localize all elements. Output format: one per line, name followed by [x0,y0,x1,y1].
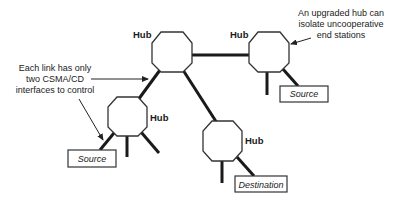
annotation-line: isolate uncooperative [298,19,383,29]
hub-label: Hub [150,112,169,123]
arrow-icon [291,38,311,44]
annotation-line: An upgraded hub can [298,8,384,18]
hub-octagon-icon [203,121,242,161]
link-right-source [282,68,298,86]
stub-left-diagonal [141,132,159,153]
hub-octagon-icon [108,97,147,136]
link-left-source [100,133,114,150]
station-label: Source [78,154,107,164]
annotation-line: end stations [317,30,366,40]
station-left-source: Source [68,150,116,167]
station-right-source: Source [280,86,328,102]
hub-octagon-icon [249,32,289,72]
hub-network-diagram: Hub Hub Hub Hub Source Source Destinatio… [0,0,396,201]
annotation-line: Each link has only [19,63,92,73]
link-bottom-destination [237,157,254,176]
hub-bottom: Hub [203,121,264,161]
annotation-line: interfaces to control [16,85,95,95]
station-destination: Destination [235,176,287,192]
link-center-bottom [183,70,217,123]
station-label: Source [290,89,319,99]
arrow-icon [79,99,103,140]
station-label: Destination [238,180,283,190]
hub-label: Hub [230,29,249,40]
hub-center: Hub [133,29,192,72]
link-center-left [138,70,160,100]
hub-label: Hub [133,29,152,40]
hub-left: Hub [108,97,169,136]
hub-label: Hub [245,135,264,146]
hub-right: Hub [230,29,289,72]
annotation-line: two CSMA/CD [26,74,85,84]
annotation-right: An upgraded hub can isolate uncooperativ… [291,8,384,44]
hub-octagon-icon [152,32,192,72]
